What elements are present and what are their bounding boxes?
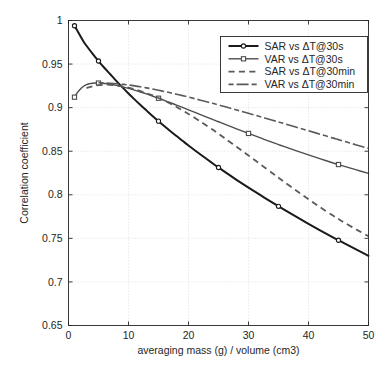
series-marker-0 (156, 119, 160, 123)
y-tick-label: 0.95 (42, 58, 63, 70)
chart-canvas: 0.650.70.750.80.850.90.95101020304050ave… (0, 0, 389, 377)
y-tick-label: 0.65 (42, 319, 63, 331)
y-tick-label: 0.7 (48, 276, 63, 288)
y-tick-label: 0.85 (42, 145, 63, 157)
legend-marker-0 (241, 44, 245, 48)
legend-label-2: SAR vs ΔT@30min (265, 65, 356, 77)
x-tick-label: 30 (243, 329, 255, 341)
legend-label-3: VAR vs ΔT@30min (265, 78, 355, 90)
y-axis-title: Correlation coefficient (18, 122, 30, 223)
x-tick-label: 10 (123, 329, 135, 341)
y-tick-label: 0.75 (42, 232, 63, 244)
series-marker-0 (276, 204, 280, 208)
legend-label-1: VAR vs ΔT@30s (265, 53, 343, 65)
x-tick-label: 20 (183, 329, 195, 341)
chart-figure: 0.650.70.750.80.850.90.95101020304050ave… (0, 0, 389, 377)
x-tick-label: 0 (66, 329, 72, 341)
series-marker-0 (96, 59, 100, 63)
series-marker-1 (246, 131, 250, 135)
x-tick-label: 40 (303, 329, 315, 341)
series-marker-0 (336, 238, 340, 242)
legend: SAR vs ΔT@30sVAR vs ΔT@30sSAR vs ΔT@30mi… (221, 37, 368, 93)
x-tick-label: 50 (363, 329, 375, 341)
series-marker-1 (72, 95, 76, 99)
series-marker-0 (216, 165, 220, 169)
y-tick-label: 1 (57, 14, 63, 26)
legend-label-0: SAR vs ΔT@30s (265, 40, 344, 52)
y-tick-label: 0.8 (48, 188, 63, 200)
series-marker-0 (72, 24, 76, 28)
series-marker-1 (336, 162, 340, 166)
x-axis-title: averaging mass (g) / volume (cm3) (137, 344, 299, 356)
legend-marker-1 (241, 57, 245, 61)
y-tick-label: 0.9 (48, 101, 63, 113)
